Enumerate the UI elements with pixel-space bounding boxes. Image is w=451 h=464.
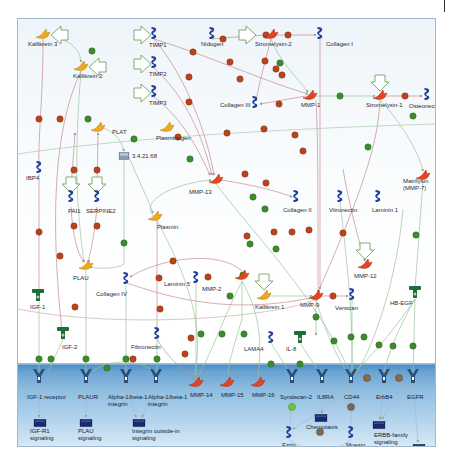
a1b1b-receptor-icon[interactable]: [149, 368, 163, 388]
plat-protease-yellow-icon[interactable]: [90, 119, 106, 137]
kallikrein2-label: Kallikrein 2: [73, 73, 102, 80]
stromelysin2-label: Stromelysin-2: [255, 41, 292, 48]
igf2-label: IGF-2: [62, 344, 77, 351]
plausig-label: PLAU signaling: [78, 428, 102, 442]
erbb4-receptor-icon[interactable]: [377, 368, 391, 388]
erbbsig-label: ERBB-family signaling: [374, 432, 408, 446]
kallikrein1-label: Kallikrein 1: [255, 304, 284, 311]
kallikrein3-label: Kallikrein 3: [28, 41, 57, 48]
collagen4-label: Collagen IV: [96, 291, 127, 298]
collagen4-inhibitor-blue-icon[interactable]: [122, 271, 131, 289]
collagen2-label: Collagen II: [283, 207, 312, 214]
induction-arrows: [51, 26, 389, 290]
mmp12-label: MMP-12: [354, 273, 377, 280]
laminin5-label: Laminin 5: [164, 281, 190, 288]
kallikrein1-protease-yellow-icon[interactable]: [256, 287, 272, 305]
collagen1-inhibitor-blue-icon[interactable]: [316, 26, 325, 44]
igf2-ligand-green-icon[interactable]: [56, 326, 70, 344]
osteonectin-label: Osteonectin: [409, 103, 436, 110]
mmp1-label: MMP-1: [301, 102, 320, 109]
mmp16-label: MMP-16: [252, 392, 275, 399]
timp1-label: TIMP1: [149, 42, 167, 49]
mmp16-protease-red-icon[interactable]: [250, 374, 266, 392]
collagen3-label: Collagen III: [220, 102, 250, 109]
cytoskeleton-process-icon[interactable]: [315, 440, 328, 447]
egfr-receptor-icon[interactable]: [406, 368, 420, 388]
pathway-map-frame: Kallikrein 3Kallikrein 2TIMP1TIMP2TIMP3N…: [17, 18, 436, 447]
serpine2-label: SERPINE2: [86, 208, 116, 215]
mmp2-label: MMP-2: [202, 286, 221, 293]
mmp2-protease-red-icon[interactable]: [234, 267, 250, 285]
fibronectin-inhibitor-blue-icon[interactable]: [153, 326, 162, 344]
cd44-label: CD44: [344, 394, 359, 401]
ezrin-inhibitor-blue-icon[interactable]: [285, 425, 294, 443]
chemotaxis-label: Chemotaxis: [306, 424, 338, 431]
versican-inhibitor-blue-icon[interactable]: [348, 287, 357, 305]
igf1r-label: IGF-1 receptor: [27, 394, 66, 401]
vitronectin-inhibitor-blue-icon[interactable]: [336, 189, 345, 207]
timp3-label: TIMP3: [149, 100, 167, 107]
plau-label: PLAU: [73, 275, 89, 282]
il8ra-receptor-icon[interactable]: [315, 368, 329, 388]
ibp4-label: IBP4: [26, 175, 39, 182]
plaur-receptor-icon[interactable]: [79, 368, 93, 388]
plaur-label: PLAUR: [78, 394, 98, 401]
a1b1a-label: Alpha-1/beta-1 integrin: [108, 394, 147, 408]
collagen1-label: Collagen I: [326, 41, 353, 48]
moesin-inhibitor-blue-icon[interactable]: [347, 425, 356, 443]
timp2-label: TIMP2: [149, 71, 167, 78]
il8ra-label: IL8RA: [317, 394, 334, 401]
plasminogen-label: Plasminogen: [156, 135, 191, 142]
egfsig-label: EGF signaling pathway: [392, 445, 436, 447]
laminin5-inhibitor-blue-icon[interactable]: [192, 270, 201, 288]
moesin-label: Moesin: [346, 442, 365, 447]
integrinsig-label: Integrin outside-in signaling: [132, 428, 180, 442]
plasmin-label: Plasmin: [157, 224, 178, 231]
a1b1b-label: Alpha-1/beta-1 integrin: [148, 394, 187, 408]
erbb4-label: ErbB4: [376, 394, 393, 401]
fibronectin-label: Fibronectin: [131, 344, 161, 351]
stromelysin1-label: Stromelysin-1: [366, 102, 403, 109]
pai1-inhibitor-blue-icon[interactable]: [67, 189, 76, 207]
erbbsig-process-icon[interactable]: [373, 415, 386, 433]
egfr-label: EGFR: [407, 394, 424, 401]
il8-label: IL-8: [286, 346, 296, 353]
igf1-label: IGF-1: [30, 304, 45, 311]
lama4-inhibitor-blue-icon[interactable]: [267, 330, 276, 348]
matrilysin-label: Matrilysin (MMP-7): [403, 178, 428, 192]
collagen3-inhibitor-blue-icon[interactable]: [251, 95, 260, 113]
lama4-label: LAMA4: [244, 346, 264, 353]
syndecan2-receptor-icon[interactable]: [285, 368, 299, 388]
plau-protease-yellow-icon[interactable]: [78, 257, 94, 275]
mmp14-label: MMP-14: [190, 392, 213, 399]
vitronectin-label: Vitronectin: [329, 207, 357, 214]
mmp13-protease-red-icon[interactable]: [208, 171, 224, 189]
syndecan2-label: Syndecan-2: [280, 394, 312, 401]
mmp15-protease-red-icon[interactable]: [219, 374, 235, 392]
mmp13-label: MMP-13: [189, 189, 212, 196]
nidogen-label: Nidogen: [201, 41, 223, 48]
ec3421-compound-grey-icon[interactable]: [119, 146, 130, 164]
collagen2-inhibitor-blue-icon[interactable]: [292, 189, 301, 207]
pai1-label: PAI1: [68, 208, 81, 215]
mmp12-protease-red-icon[interactable]: [357, 256, 373, 274]
ec3421-label: 3.4.21.68: [132, 153, 157, 160]
mmp14-protease-red-icon[interactable]: [188, 374, 204, 392]
mmp15-label: MMP-15: [221, 392, 244, 399]
cd44-receptor-icon[interactable]: [344, 368, 358, 388]
hbegf-label: HB-EGF: [390, 300, 413, 307]
plat-label: PLAT: [112, 129, 127, 136]
page-edge-mark: [444, 0, 445, 12]
laminin1-inhibitor-blue-icon[interactable]: [374, 189, 383, 207]
versican-label: Versican: [335, 305, 358, 312]
laminin1-label: Laminin 1: [372, 207, 398, 214]
igf1r-receptor-icon[interactable]: [32, 368, 46, 388]
ezrin-label: Ezrin: [282, 442, 296, 447]
serpine2-inhibitor-blue-icon[interactable]: [93, 189, 102, 207]
mmp9-label: MMP-9: [300, 302, 319, 309]
igfr1sig-label: IGF-R1 signaling: [30, 428, 54, 442]
a1b1a-receptor-icon[interactable]: [119, 368, 133, 388]
